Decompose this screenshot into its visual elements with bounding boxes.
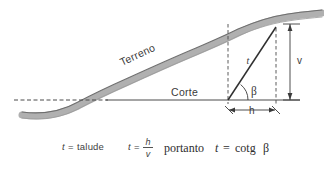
formula-ratio-var: t	[128, 141, 131, 152]
angle-beta-arc	[241, 85, 248, 101]
formula-conclusion-word: portanto	[164, 141, 204, 155]
formula-ratio-equals: =	[134, 141, 140, 152]
formula-conclusion-equals: =	[223, 141, 230, 155]
formula-ratio-denominator: v	[146, 149, 151, 159]
dimension-v-arrow-top	[288, 24, 293, 31]
cut-label: Corte	[171, 86, 198, 98]
formula-ratio-numerator: h	[145, 137, 150, 147]
figure-page: Terreno Corte t β h v t = talude t = h v…	[0, 0, 324, 170]
formula-conclusion-var: t	[215, 141, 219, 155]
formula-definition-equals: =	[68, 141, 74, 152]
dimension-h-arrow-left	[229, 108, 235, 113]
terrain-label: Terreno	[118, 41, 157, 68]
formula-conclusion-angle: β	[263, 141, 269, 155]
formula-definition-var: t	[62, 141, 65, 152]
terrain-band	[22, 13, 322, 116]
dimension-v-label: v	[297, 55, 302, 66]
formula-definition-word: talude	[77, 141, 104, 152]
terrain-edge-bottom	[22, 17, 322, 119]
angle-beta-label: β	[251, 85, 257, 98]
dimension-h-label: h	[249, 105, 255, 116]
slope-diagram: Terreno Corte t β h v t = talude t = h v…	[0, 0, 324, 170]
dimension-v-arrow-bottom	[288, 93, 293, 100]
slope-length-label: t	[247, 55, 250, 66]
formula-conclusion-function: cotg	[235, 141, 256, 155]
